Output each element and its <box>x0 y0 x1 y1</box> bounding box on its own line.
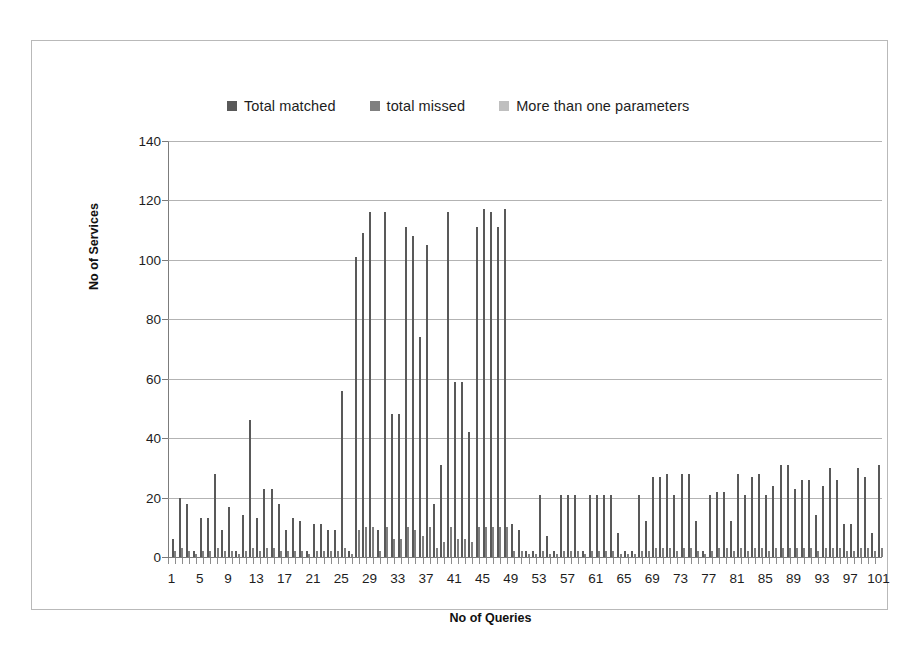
bar-total-matched <box>610 495 612 557</box>
x-tick-mark <box>868 558 869 564</box>
bar-total-missed <box>768 551 770 557</box>
legend-label: More than one parameters <box>516 98 689 114</box>
bar-total-matched <box>772 486 774 557</box>
y-tick-label: 120 <box>138 193 161 208</box>
bar-total-missed <box>379 551 381 557</box>
x-tick-mark <box>790 558 791 564</box>
x-tick-mark <box>295 558 296 564</box>
x-tick-mark <box>521 558 522 564</box>
x-tick-label: 33 <box>390 571 405 586</box>
bar-total-missed <box>782 548 784 557</box>
y-tick-mark <box>162 200 168 201</box>
bar-total-missed <box>252 548 254 557</box>
x-tick-mark <box>804 558 805 564</box>
x-tick-label: 1 <box>168 571 176 586</box>
bar-total-matched <box>560 495 562 557</box>
bar-total-missed <box>726 548 728 557</box>
gridline <box>168 438 882 439</box>
x-tick-mark <box>543 558 544 564</box>
x-tick-mark <box>833 558 834 564</box>
bar-total-missed <box>832 548 834 557</box>
x-tick-mark <box>189 558 190 564</box>
x-tick-mark <box>557 558 558 564</box>
x-tick-label: 73 <box>673 571 688 586</box>
x-tick-mark <box>394 558 395 564</box>
bar-total-matched <box>652 477 654 557</box>
bar-total-matched <box>666 474 668 557</box>
x-tick-mark <box>324 558 325 564</box>
bar-total-missed <box>718 548 720 557</box>
x-tick-mark <box>281 558 282 564</box>
bar-total-matched <box>398 414 400 557</box>
x-tick-mark <box>437 558 438 564</box>
x-tick-label: 93 <box>814 571 829 586</box>
bar-total-missed <box>217 548 219 557</box>
bar-total-missed <box>577 551 579 557</box>
chart-legend: Total matchedtotal missedMore than one p… <box>227 95 689 117</box>
legend-swatch-icon <box>227 101 237 111</box>
bar-total-matched <box>539 495 541 557</box>
bar-total-matched <box>412 236 414 557</box>
bar-total-matched <box>490 212 492 557</box>
x-tick-mark <box>423 558 424 564</box>
y-tick-label: 100 <box>138 252 161 267</box>
x-tick-mark <box>825 558 826 564</box>
bar-total-missed <box>556 554 558 557</box>
chart-frame: Total matchedtotal missedMore than one p… <box>31 40 888 610</box>
x-tick-label: 21 <box>305 571 320 586</box>
bar-total-missed <box>209 551 211 557</box>
gridline <box>168 260 882 261</box>
x-axis-title: No of Queries <box>32 611 917 625</box>
bar-total-matched <box>801 480 803 557</box>
x-tick-mark <box>642 558 643 564</box>
x-tick-mark <box>444 558 445 564</box>
bar-total-missed <box>754 548 756 557</box>
bar-total-missed <box>407 527 409 557</box>
bar-total-missed <box>471 542 473 557</box>
bar-total-missed <box>542 551 544 557</box>
bar-total-matched <box>794 489 796 557</box>
y-tick-mark <box>162 498 168 499</box>
x-tick-mark <box>847 558 848 564</box>
y-tick-label: 0 <box>153 550 161 565</box>
bar-total-missed <box>280 551 282 557</box>
bar-total-matched <box>384 212 386 557</box>
bar-total-matched <box>744 495 746 557</box>
bar-total-matched <box>589 495 591 557</box>
bar-total-missed <box>443 542 445 557</box>
x-tick-mark <box>203 558 204 564</box>
x-tick-mark <box>656 558 657 564</box>
x-tick-mark <box>670 558 671 564</box>
x-tick-mark <box>260 558 261 564</box>
y-tick-mark <box>162 438 168 439</box>
x-tick-mark <box>493 558 494 564</box>
bar-total-missed <box>584 554 586 557</box>
bar-total-missed <box>711 551 713 557</box>
x-tick-label: 89 <box>786 571 801 586</box>
x-tick-mark <box>776 558 777 564</box>
bar-total-missed <box>528 554 530 557</box>
x-tick-mark <box>755 558 756 564</box>
legend-label: Total matched <box>244 98 336 114</box>
x-tick-mark <box>719 558 720 564</box>
bar-total-missed <box>761 548 763 557</box>
bar-total-matched <box>822 486 824 557</box>
bar-total-matched <box>829 468 831 557</box>
bar-total-matched <box>878 465 880 557</box>
bar-total-missed <box>740 548 742 557</box>
x-tick-mark <box>705 558 706 564</box>
legend-label: total missed <box>387 98 466 114</box>
bar-total-missed <box>266 548 268 557</box>
bar-total-missed <box>733 551 735 557</box>
bar-total-matched <box>567 495 569 557</box>
bar-total-missed <box>308 554 310 557</box>
bar-total-missed <box>704 554 706 557</box>
x-tick-label: 57 <box>560 571 575 586</box>
x-tick-mark <box>507 558 508 564</box>
x-tick-label: 9 <box>224 571 232 586</box>
bar-total-missed <box>323 551 325 557</box>
bar-total-missed <box>330 551 332 557</box>
x-tick-mark <box>550 558 551 564</box>
bar-total-missed <box>817 551 819 557</box>
bar-total-matched <box>603 495 605 557</box>
